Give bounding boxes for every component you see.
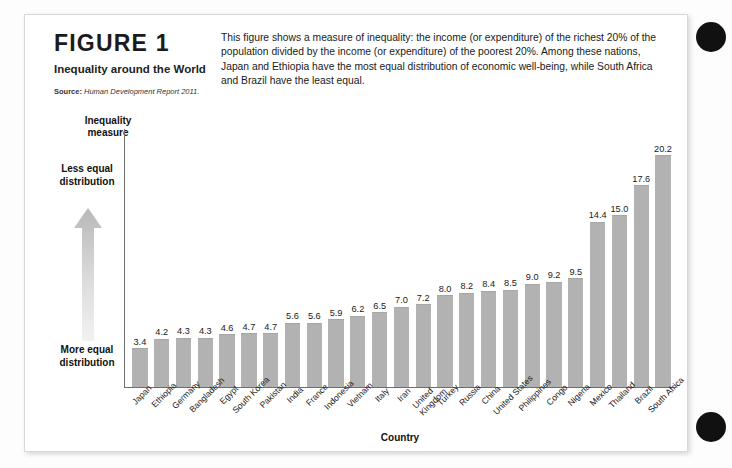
x-tick-slot: Thailand bbox=[609, 389, 631, 437]
figure-header: FIGURE 1 Inequality around the World Sou… bbox=[25, 15, 687, 101]
page-binding-dot-bottom bbox=[696, 412, 726, 442]
figure-source: Source: Human Development Report 2011. bbox=[54, 87, 199, 96]
bar-value-label: 8.4 bbox=[482, 279, 495, 289]
bar-item: 4.7 bbox=[238, 129, 260, 387]
bar-rect bbox=[350, 316, 365, 387]
figure-description: This figure shows a measure of inequalit… bbox=[221, 31, 671, 89]
plot-area: 3.44.24.34.34.64.74.75.65.65.96.26.57.07… bbox=[124, 129, 676, 388]
bar-item: 20.2 bbox=[652, 129, 674, 387]
bar-series: 3.44.24.34.34.64.74.75.65.65.96.26.57.07… bbox=[125, 129, 676, 387]
bar-item: 4.3 bbox=[173, 129, 195, 387]
x-tick-slot: United Kingdom bbox=[412, 389, 434, 437]
x-tick-slot: South Korea bbox=[237, 389, 259, 437]
figure-source-text: Human Development Report 2011. bbox=[84, 87, 199, 96]
bar-item: 9.2 bbox=[543, 129, 565, 387]
bar-rect bbox=[655, 155, 670, 387]
x-tick-slot: United States bbox=[499, 389, 521, 437]
bar-value-label: 9.0 bbox=[526, 272, 539, 282]
bar-rect bbox=[176, 338, 191, 387]
bar-value-label: 8.0 bbox=[439, 284, 452, 294]
x-tick-slot: Mexico bbox=[587, 389, 609, 437]
bar-rect bbox=[198, 338, 213, 387]
x-tick-slot: Ethiopia bbox=[150, 389, 172, 437]
bar-item: 14.4 bbox=[587, 129, 609, 387]
bar-value-label: 7.2 bbox=[417, 293, 430, 303]
up-arrow-gradient-icon bbox=[73, 208, 103, 341]
x-tick-slot: France bbox=[303, 389, 325, 437]
bar-rect bbox=[307, 323, 322, 387]
x-tick-slot: Vietnam bbox=[346, 389, 368, 437]
bar-value-label: 6.5 bbox=[373, 301, 386, 311]
bar-rect bbox=[372, 312, 387, 387]
bar-rect bbox=[437, 295, 452, 387]
bar-rect bbox=[328, 319, 343, 387]
bar-value-label: 4.7 bbox=[242, 322, 255, 332]
bar-value-label: 4.3 bbox=[199, 326, 212, 336]
x-tick-slot: Russia bbox=[456, 389, 478, 437]
bar-item: 4.6 bbox=[216, 129, 238, 387]
bar-rect bbox=[132, 348, 147, 387]
figure-card: FIGURE 1 Inequality around the World Sou… bbox=[24, 14, 688, 452]
bar-rect bbox=[590, 222, 605, 387]
bar-value-label: 8.5 bbox=[504, 278, 517, 288]
bar-value-label: 9.2 bbox=[548, 270, 561, 280]
bar-value-label: 5.9 bbox=[330, 308, 343, 318]
x-tick-slot: Nigeria bbox=[565, 389, 587, 437]
x-tick-label: Italy bbox=[374, 386, 392, 404]
x-tick-slot: Germany bbox=[172, 389, 194, 437]
bar-rect bbox=[459, 293, 474, 387]
bar-item: 8.5 bbox=[500, 129, 522, 387]
bar-item: 5.9 bbox=[325, 129, 347, 387]
bar-item: 9.0 bbox=[521, 129, 543, 387]
figure-source-label: Source: bbox=[54, 87, 82, 96]
bar-item: 4.7 bbox=[260, 129, 282, 387]
bar-item: 3.4 bbox=[129, 129, 151, 387]
x-axis-tick-labels: JapanEthiopiaGermanyBangladeshEgyptSouth… bbox=[124, 389, 676, 437]
bar-rect bbox=[285, 323, 300, 387]
x-tick-slot: Philippines bbox=[521, 389, 543, 437]
x-axis-title: Country bbox=[124, 432, 676, 443]
x-tick-slot: Turkey bbox=[434, 389, 456, 437]
bar-value-label: 4.6 bbox=[221, 323, 234, 333]
figure-number-label: FIGURE 1 bbox=[54, 30, 170, 57]
bar-rect bbox=[154, 339, 169, 387]
bar-value-label: 7.0 bbox=[395, 295, 408, 305]
bar-rect bbox=[481, 291, 496, 387]
x-tick-slot: Iran bbox=[390, 389, 412, 437]
bar-value-label: 15.0 bbox=[610, 204, 628, 214]
bar-item: 17.6 bbox=[630, 129, 652, 387]
page-binding-dot-top bbox=[696, 22, 726, 52]
chart-region: Inequality measure Less equal distributi… bbox=[25, 101, 689, 453]
figure-title: Inequality around the World bbox=[54, 63, 206, 75]
x-tick-slot: Brazil bbox=[630, 389, 652, 437]
bar-rect bbox=[568, 278, 583, 387]
bar-item: 5.6 bbox=[303, 129, 325, 387]
x-tick-slot: India bbox=[281, 389, 303, 437]
bar-item: 4.3 bbox=[194, 129, 216, 387]
bar-value-label: 3.4 bbox=[134, 337, 147, 347]
bar-value-label: 17.6 bbox=[632, 174, 650, 184]
bar-rect bbox=[546, 282, 561, 387]
bar-rect bbox=[503, 290, 518, 387]
bar-item: 4.2 bbox=[151, 129, 173, 387]
bar-value-label: 14.4 bbox=[589, 210, 607, 220]
page-canvas: FIGURE 1 Inequality around the World Sou… bbox=[0, 0, 732, 468]
x-tick-slot: Egypt bbox=[215, 389, 237, 437]
bar-value-label: 4.7 bbox=[264, 322, 277, 332]
bar-value-label: 4.2 bbox=[155, 327, 168, 337]
bar-rect bbox=[525, 284, 540, 387]
bar-item: 8.0 bbox=[434, 129, 456, 387]
bar-item: 5.6 bbox=[282, 129, 304, 387]
bar-value-label: 9.5 bbox=[569, 267, 582, 277]
bar-item: 7.0 bbox=[391, 129, 413, 387]
legend-more-equal: More equal distribution bbox=[41, 344, 133, 369]
bar-value-label: 8.2 bbox=[460, 281, 473, 291]
x-tick-slot: Italy bbox=[368, 389, 390, 437]
x-tick-slot: South Africa bbox=[652, 389, 674, 437]
x-tick-slot: Pakistan bbox=[259, 389, 281, 437]
bar-value-label: 6.2 bbox=[351, 304, 364, 314]
bar-rect bbox=[416, 304, 431, 387]
bar-value-label: 20.2 bbox=[654, 144, 672, 154]
x-tick-slot: Indonesia bbox=[325, 389, 347, 437]
bar-value-label: 5.6 bbox=[286, 311, 299, 321]
